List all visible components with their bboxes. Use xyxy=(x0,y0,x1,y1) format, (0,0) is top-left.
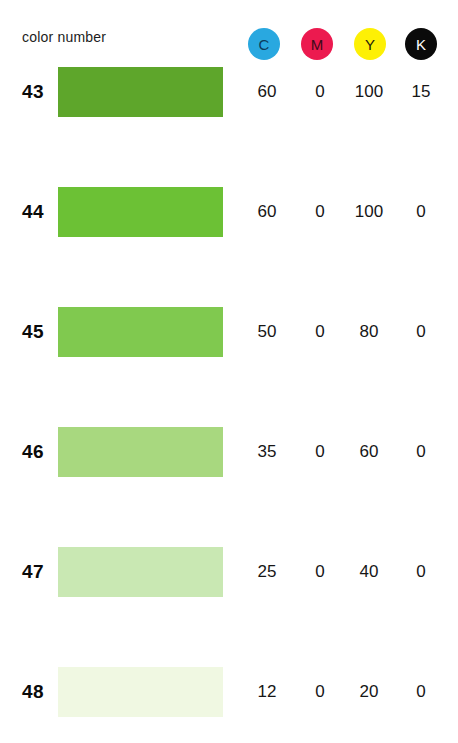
color-number: 44 xyxy=(22,187,56,237)
color-swatch xyxy=(58,667,223,717)
color-swatch xyxy=(58,187,223,237)
yellow-channel-badge: Y xyxy=(354,28,386,60)
black-channel-badge: K xyxy=(405,28,437,60)
magenta-value: 0 xyxy=(294,67,346,117)
cyan-value: 25 xyxy=(241,547,293,597)
black-value: 15 xyxy=(395,67,447,117)
color-number-label: color number xyxy=(22,29,106,45)
color-row: 43 60 0 100 15 xyxy=(0,67,458,117)
color-row: 46 35 0 60 0 xyxy=(0,427,458,477)
black-value: 0 xyxy=(395,547,447,597)
color-number: 46 xyxy=(22,427,56,477)
magenta-value: 0 xyxy=(294,427,346,477)
yellow-value: 100 xyxy=(343,67,395,117)
magenta-value: 0 xyxy=(294,307,346,357)
color-chart-page: color number C M Y K 43 60 0 100 15 44 6… xyxy=(0,0,458,743)
cyan-channel-letter: C xyxy=(259,36,270,53)
yellow-channel-letter: Y xyxy=(365,36,375,53)
black-channel-letter: K xyxy=(416,36,426,53)
yellow-value: 20 xyxy=(343,667,395,717)
black-value: 0 xyxy=(395,307,447,357)
color-number: 43 xyxy=(22,67,56,117)
magenta-channel-letter: M xyxy=(311,36,324,53)
cyan-value: 35 xyxy=(241,427,293,477)
yellow-value: 80 xyxy=(343,307,395,357)
color-number: 47 xyxy=(22,547,56,597)
color-swatch xyxy=(58,67,223,117)
black-value: 0 xyxy=(395,427,447,477)
magenta-value: 0 xyxy=(294,187,346,237)
black-value: 0 xyxy=(395,187,447,237)
magenta-value: 0 xyxy=(294,547,346,597)
cyan-channel-badge: C xyxy=(248,28,280,60)
magenta-value: 0 xyxy=(294,667,346,717)
color-row: 47 25 0 40 0 xyxy=(0,547,458,597)
cyan-value: 50 xyxy=(241,307,293,357)
color-swatch xyxy=(58,547,223,597)
yellow-value: 40 xyxy=(343,547,395,597)
cyan-value: 60 xyxy=(241,187,293,237)
color-number: 48 xyxy=(22,667,56,717)
yellow-value: 100 xyxy=(343,187,395,237)
color-number: 45 xyxy=(22,307,56,357)
color-swatch xyxy=(58,307,223,357)
magenta-channel-badge: M xyxy=(301,28,333,60)
cyan-value: 12 xyxy=(241,667,293,717)
color-row: 48 12 0 20 0 xyxy=(0,667,458,717)
yellow-value: 60 xyxy=(343,427,395,477)
black-value: 0 xyxy=(395,667,447,717)
cyan-value: 60 xyxy=(241,67,293,117)
color-swatch xyxy=(58,427,223,477)
color-row: 45 50 0 80 0 xyxy=(0,307,458,357)
color-row: 44 60 0 100 0 xyxy=(0,187,458,237)
